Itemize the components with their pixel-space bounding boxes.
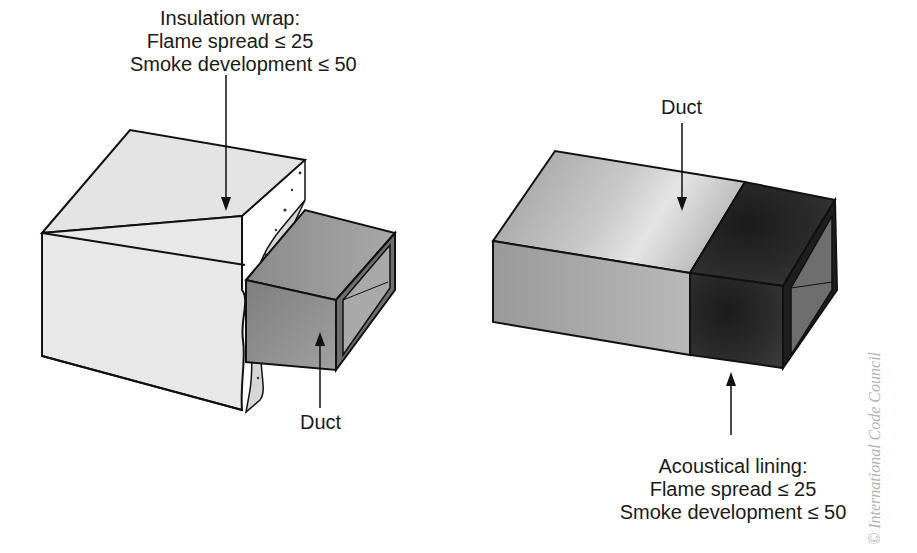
duct-label-left: Duct xyxy=(293,411,348,434)
acoustical-lining-flame: Flame spread ≤ 25 xyxy=(618,478,848,501)
lining-front-face xyxy=(690,273,783,368)
insulation-wrap-flame: Flame spread ≤ 25 xyxy=(130,30,330,53)
insulation-wrap-front xyxy=(42,216,245,410)
acoustical-lining-smoke: Smoke development ≤ 50 xyxy=(618,501,848,524)
copyright-watermark: © International Code Council xyxy=(866,352,884,545)
insulation-wrap-label: Insulation wrap: Flame spread ≤ 25 Smoke… xyxy=(130,7,330,76)
insulated-duct-figure xyxy=(42,75,395,412)
insulation-wrap-smoke: Smoke development ≤ 50 xyxy=(130,53,330,76)
acoustical-lining-title: Acoustical lining: xyxy=(618,455,848,478)
insulation-wrap-top xyxy=(42,130,305,233)
lined-duct-figure xyxy=(493,123,837,435)
acoustical-lining-label: Acoustical lining: Flame spread ≤ 25 Smo… xyxy=(618,455,848,524)
insulation-wrap-title: Insulation wrap: xyxy=(130,7,330,30)
duct-label-right: Duct xyxy=(654,96,709,119)
